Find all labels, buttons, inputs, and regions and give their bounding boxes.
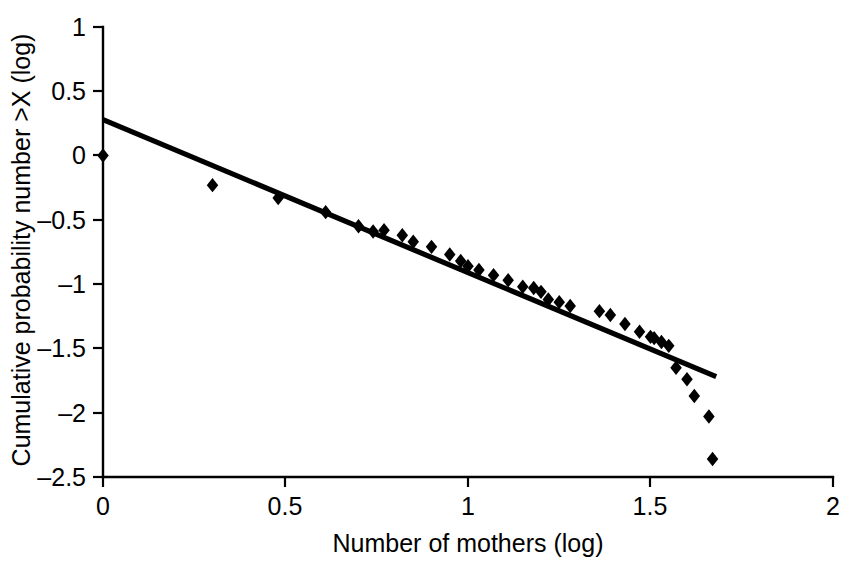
y-axis-ticks bbox=[93, 27, 103, 477]
scatter-plot-svg: Cumulative probability number >X (log) 1… bbox=[0, 0, 865, 570]
data-point bbox=[207, 178, 219, 192]
data-point bbox=[97, 148, 109, 162]
y-tick-label: –0.5 bbox=[37, 206, 86, 234]
data-point bbox=[619, 317, 631, 331]
x-axis-ticks bbox=[103, 477, 833, 487]
y-tick-label: 0.5 bbox=[51, 77, 86, 105]
y-tick-label: –1 bbox=[58, 270, 86, 298]
data-point bbox=[426, 240, 438, 254]
x-tick-label: 2 bbox=[826, 492, 840, 520]
y-axis-title: Cumulative probability number >X (log) bbox=[7, 34, 35, 467]
data-point bbox=[689, 389, 701, 403]
x-tick-label: 0.5 bbox=[268, 492, 303, 520]
y-tick-label: –2.5 bbox=[37, 463, 86, 491]
y-tick-label: –2 bbox=[58, 399, 86, 427]
data-point bbox=[397, 228, 409, 242]
y-tick-label: –1.5 bbox=[37, 334, 86, 362]
chart-figure: Cumulative probability number >X (log) 1… bbox=[0, 0, 865, 570]
data-point bbox=[353, 219, 365, 233]
x-tick-label: 1 bbox=[461, 492, 475, 520]
data-point bbox=[444, 247, 456, 261]
data-point bbox=[605, 308, 617, 322]
data-point bbox=[681, 372, 693, 386]
x-axis-title: Number of mothers (log) bbox=[333, 529, 604, 557]
data-point bbox=[594, 304, 606, 318]
x-axis-tick-labels: 0 0.5 1 1.5 2 bbox=[96, 492, 840, 520]
y-axis-tick-labels: 1 0.5 0 –0.5 –1 –1.5 –2 –2.5 bbox=[37, 13, 86, 491]
data-point bbox=[707, 452, 719, 466]
x-tick-label: 0 bbox=[96, 492, 110, 520]
x-tick-label: 1.5 bbox=[633, 492, 668, 520]
y-tick-label: 0 bbox=[72, 141, 86, 169]
data-point-group bbox=[97, 148, 718, 466]
y-tick-label: 1 bbox=[72, 13, 86, 41]
data-point bbox=[634, 325, 646, 339]
data-point bbox=[703, 409, 715, 423]
regression-fit-line bbox=[103, 120, 716, 377]
